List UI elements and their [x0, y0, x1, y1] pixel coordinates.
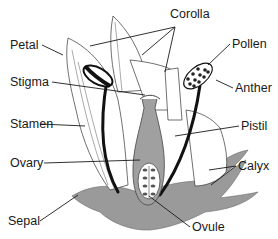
label-petal: Petal	[10, 39, 39, 52]
label-pollen: Pollen	[232, 38, 267, 51]
pistil-shape	[133, 95, 164, 205]
label-sepal: Sepal	[8, 215, 40, 228]
label-ovary: Ovary	[10, 157, 43, 170]
flower-diagram: Corolla Petal Pollen Stigma Anther Stame…	[0, 0, 278, 239]
label-stigma: Stigma	[10, 76, 49, 89]
label-calyx: Calyx	[238, 160, 269, 173]
label-stamen: Stamen	[10, 118, 53, 131]
label-anther: Anther	[235, 82, 272, 95]
label-pistil: Pistil	[241, 120, 267, 133]
label-corolla: Corolla	[170, 8, 210, 21]
label-ovule: Ovule	[192, 221, 225, 234]
